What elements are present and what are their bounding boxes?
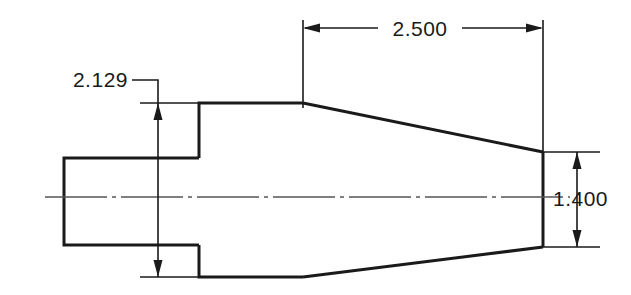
dimension-label-2500: 2.500 <box>392 17 447 40</box>
flange-outline <box>199 103 303 158</box>
dimension-label-2129: 2.129 <box>73 68 128 91</box>
arrowhead-1400-top <box>573 152 582 169</box>
shank-outline <box>64 158 199 245</box>
taper-top-edge <box>303 103 543 152</box>
part-outline <box>64 103 543 277</box>
dimension-label-1400: 1.400 <box>553 187 608 210</box>
technical-drawing-canvas: 2.500 2.129 1.400 <box>0 0 631 295</box>
taper-bottom-edge <box>303 247 543 277</box>
leader-line-2129 <box>132 80 158 103</box>
arrowhead-2129-top <box>154 103 163 120</box>
arrowhead-1400-bottom <box>573 230 582 247</box>
arrowhead-2500-right <box>526 24 543 33</box>
arrowhead-2500-left <box>303 24 320 33</box>
flange-outline-lower <box>199 245 303 277</box>
dimension-2129 <box>132 80 205 277</box>
arrowhead-2129-bottom <box>154 260 163 277</box>
dimension-2500 <box>303 20 543 160</box>
drawing-svg: 2.500 2.129 1.400 <box>0 0 631 295</box>
